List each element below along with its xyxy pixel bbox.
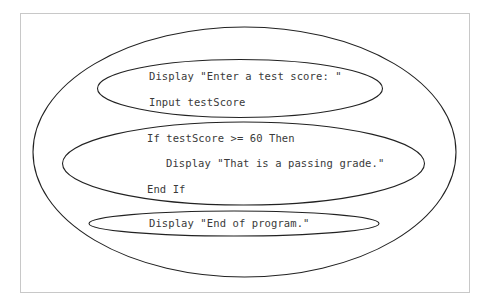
code-line-display-passing: Display "That is a passing grade." [166,157,384,169]
input-block-ellipse [98,60,383,118]
code-line-display-enter-score: Display "Enter a test score: " [149,70,342,82]
code-line-display-end: Display "End of program." [149,217,310,229]
ellipses-diagram [0,0,487,306]
code-line-input-testscore: Input testScore [149,96,245,108]
code-line-if-testscore: If testScore >= 60 Then [147,132,295,144]
outer-sequence-ellipse [33,27,456,277]
code-line-end-if: End If [147,183,186,195]
